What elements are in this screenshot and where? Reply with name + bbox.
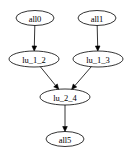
edge-line xyxy=(40,67,55,86)
edges xyxy=(32,25,100,131)
node-label: lu_2_4 xyxy=(53,93,77,103)
edge-lu_1_2-to-lu_2_4 xyxy=(40,67,58,90)
edge-line xyxy=(34,25,35,46)
nodes: all0all1lu_1_2lu_1_3lu_2_4all5 xyxy=(9,11,123,147)
node-all5: all5 xyxy=(46,132,84,147)
arrowhead-icon xyxy=(95,46,100,51)
node-lu_1_3: lu_1_3 xyxy=(73,51,123,67)
arrowhead-icon xyxy=(63,127,68,132)
node-lu_1_2: lu_1_2 xyxy=(9,51,59,67)
node-lu_2_4: lu_2_4 xyxy=(40,89,90,105)
edge-all0-to-lu_1_2 xyxy=(32,25,37,51)
node-label: all5 xyxy=(59,135,72,145)
edge-lu_2_4-to-all5 xyxy=(63,105,68,132)
node-all1: all1 xyxy=(78,11,116,26)
edge-lu_1_3-to-lu_2_4 xyxy=(72,67,92,90)
node-label: all1 xyxy=(91,14,104,24)
edge-line xyxy=(75,67,91,86)
dependency-graph: all0all1lu_1_2lu_1_3lu_2_4all5 xyxy=(0,0,131,159)
node-all0: all0 xyxy=(16,11,54,26)
edge-all1-to-lu_1_3 xyxy=(95,25,100,51)
arrowhead-icon xyxy=(32,46,37,51)
node-label: all0 xyxy=(29,14,42,24)
node-label: lu_1_3 xyxy=(86,55,110,65)
edge-line xyxy=(97,25,98,46)
node-label: lu_1_2 xyxy=(22,55,46,65)
